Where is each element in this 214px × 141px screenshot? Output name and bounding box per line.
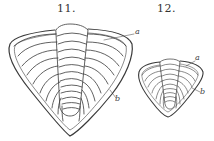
figure-12-label-b: b	[200, 87, 205, 96]
figure-12-label-a: a	[195, 53, 200, 62]
trilobite-pygidia-illustration	[0, 0, 214, 141]
figure-11-label-b: b	[115, 94, 120, 103]
figure-11-pygidium	[9, 24, 134, 136]
figure-12-pygidium	[139, 59, 203, 117]
figure-11-label-a: a	[135, 27, 140, 36]
